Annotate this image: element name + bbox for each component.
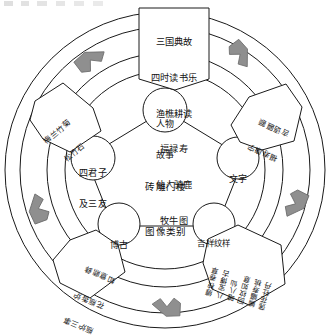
callout-box-gentlemen (30, 83, 101, 152)
callout-boxes (0, 0, 330, 335)
callout-box-auspicious (203, 225, 285, 305)
callout-box-figures (139, 8, 209, 90)
callout-box-text (231, 84, 302, 150)
diagram-canvas: 砖雕门楼 图像类别 人物 故事 文字 吉祥纹样 博古 四君子 及三友 三国典故 … (0, 0, 330, 335)
callout-box-antiques (53, 230, 125, 298)
